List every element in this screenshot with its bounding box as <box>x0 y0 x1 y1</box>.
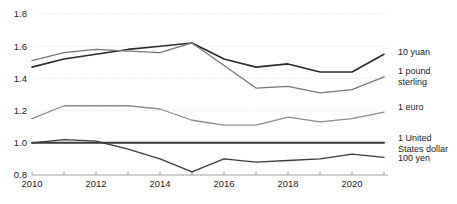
x-axis-tick-label: 2012 <box>85 178 106 189</box>
series-label-1-pound-sterling: sterling <box>398 77 427 87</box>
x-axis-tick-label: 2014 <box>149 178 170 189</box>
series-label-10-yuan: 10 yuan <box>398 47 430 57</box>
x-axis: 201020122014201620182020 <box>21 172 388 190</box>
y-axis-tick-label: 1.4 <box>14 73 27 84</box>
y-axis-tick-label: 1.6 <box>14 41 27 52</box>
series-labels: 10 yuan1 poundsterling1 euro1 UnitedStat… <box>398 47 448 163</box>
x-axis-tick-label: 2016 <box>213 178 234 189</box>
series-line-10-yuan <box>32 43 384 72</box>
series-label-1-pound-sterling: 1 pound <box>398 66 431 76</box>
series-group <box>32 43 384 172</box>
y-axis-tick-label: 1.0 <box>14 137 27 148</box>
y-gridlines: 0.81.01.21.41.61.8 <box>14 8 388 180</box>
series-label-1-united-states-dollar: 1 United <box>398 133 432 143</box>
currency-index-line-chart: 0.81.01.21.41.61.82010201220142016201820… <box>0 0 457 204</box>
y-axis-tick-label: 1.8 <box>14 8 27 19</box>
x-axis-tick-label: 2018 <box>277 178 298 189</box>
chart-plot-area: 0.81.01.21.41.61.82010201220142016201820… <box>0 0 457 204</box>
series-line-100-yen <box>32 140 384 172</box>
y-axis-tick-label: 1.2 <box>14 105 27 116</box>
x-axis-tick-label: 2020 <box>341 178 362 189</box>
series-line-1-euro <box>32 106 384 125</box>
series-label-100-yen: 100 yen <box>398 153 430 163</box>
series-label-1-united-states-dollar: States dollar <box>398 144 448 154</box>
x-axis-tick-label: 2010 <box>21 178 42 189</box>
series-label-1-euro: 1 euro <box>398 102 424 112</box>
